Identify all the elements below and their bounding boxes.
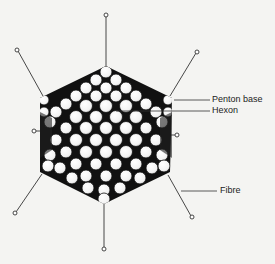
- label-hexon: Hexon: [212, 105, 238, 115]
- capsid: [39, 66, 173, 205]
- label-penton-base: Penton base: [212, 94, 263, 104]
- label-fibre: Fibre: [220, 185, 241, 195]
- adenovirus-diagram: [0, 0, 275, 264]
